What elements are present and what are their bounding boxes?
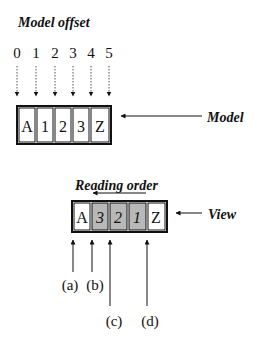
offset-label: 2	[51, 45, 59, 61]
model-cell-text: A	[21, 118, 33, 135]
model-offset-title: Model offset	[17, 15, 91, 30]
model-cell-text: 1	[41, 118, 49, 135]
pointer-label-c: (c)	[106, 313, 123, 330]
offset-label: 1	[32, 45, 40, 61]
offset-labels: 0 1 2 3 4 5	[13, 45, 113, 61]
pointer-label-d: (d)	[141, 313, 159, 330]
view-cell-text: 3	[95, 209, 104, 226]
view-cell-text: 1	[133, 209, 141, 226]
offset-arrows	[17, 66, 109, 96]
view-buffer: A 3 2 1 Z	[72, 201, 167, 232]
reading-order-label: Reading order	[74, 178, 158, 193]
pointer-label-a: (a)	[62, 277, 79, 294]
model-cell-text: 2	[59, 118, 67, 135]
model-cell-text: 3	[77, 118, 85, 135]
model-buffer: A 1 2 3 Z	[17, 106, 111, 144]
view-cell-text: 2	[114, 209, 122, 226]
offset-label: 3	[69, 45, 77, 61]
model-cell-text: Z	[95, 118, 105, 135]
view-label: View	[208, 207, 237, 222]
pointer-label-b: (b)	[86, 277, 104, 294]
offset-label: 5	[105, 45, 113, 61]
view-cell-text: A	[76, 209, 88, 226]
view-cell-text: Z	[151, 209, 161, 226]
offset-label: 0	[13, 45, 21, 61]
bidi-diagram: Model offset 0 1 2 3 4 5 A 1 2 3 Z Model…	[0, 0, 257, 338]
offset-label: 4	[87, 45, 95, 61]
model-label: Model	[206, 110, 244, 125]
